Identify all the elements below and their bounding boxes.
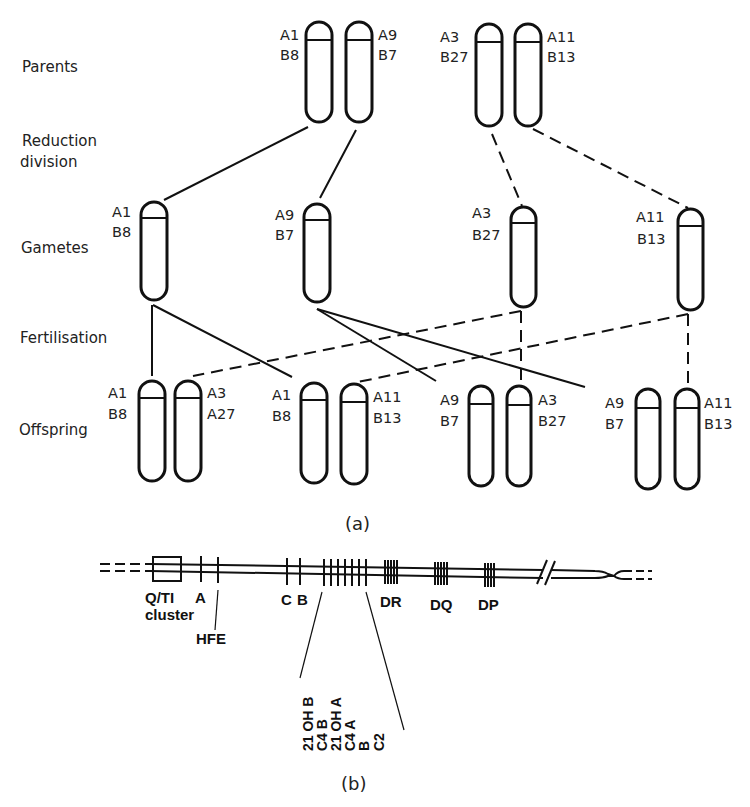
allele-a: A11 — [547, 29, 575, 45]
chromosome — [515, 24, 541, 126]
allele-a: A1 — [108, 385, 127, 401]
chromosome — [341, 384, 367, 484]
stage-label-gametes: Gametes — [21, 239, 89, 257]
allele-b: B7 — [605, 416, 624, 432]
chromosome — [346, 22, 372, 122]
meiosis-line — [164, 127, 308, 200]
allele-b: A27 — [207, 406, 235, 422]
meiosis-line — [320, 130, 356, 198]
allele-a: A1 — [272, 387, 291, 403]
allele-a: A3 — [440, 29, 459, 45]
gene-label-cluster: cluster — [145, 606, 194, 623]
allele-b: B27 — [440, 49, 468, 65]
qti-cluster-box — [153, 557, 181, 581]
gamete-4: A11 B13 — [636, 209, 703, 310]
allele-a: A11 — [373, 389, 401, 405]
allele-b: B8 — [272, 408, 291, 424]
gene-label-dr: DR — [380, 593, 402, 610]
allele-a: A11 — [636, 209, 664, 225]
chromosome — [469, 386, 493, 486]
stage-label-parents: Parents — [22, 58, 78, 76]
allele-a: A3 — [207, 385, 226, 401]
allele-b: B13 — [637, 231, 665, 247]
offspring-2: A1 B8 A11 B13 — [272, 383, 401, 484]
chromosome — [476, 24, 502, 126]
chromosome-6-map — [100, 556, 652, 730]
chromosome — [301, 383, 327, 483]
allele-a: A3 — [472, 205, 491, 221]
allele-b: B7 — [440, 413, 459, 429]
allele-b: B13 — [373, 410, 401, 426]
gene-label-a: A — [195, 589, 206, 606]
stage-label-fertilisation: Fertilisation — [20, 329, 107, 347]
gene-label-qti: Q/TI — [145, 589, 174, 606]
chromosome — [306, 22, 332, 122]
gene-label-hfe: HFE — [196, 630, 226, 647]
chromosome — [678, 209, 703, 310]
allele-a: A9 — [378, 27, 397, 43]
gamete-3: A3 B27 — [472, 205, 536, 307]
allele-a: A1 — [112, 204, 131, 220]
allele-b: B7 — [378, 47, 397, 63]
offspring-3: A9 B7 A3 B27 — [440, 386, 566, 486]
parent-2-chromosome-pair: A3 B27 A11 B13 — [440, 24, 575, 126]
stage-label-offspring: Offspring — [19, 421, 88, 439]
parent-1-chromosome-pair: A1 B8 A9 B7 — [280, 22, 397, 122]
hfe-leader-line — [215, 590, 218, 630]
stage-label-reduction: Reduction — [22, 132, 97, 150]
allele-a: A1 — [280, 27, 299, 43]
allele-b: B8 — [280, 47, 299, 63]
offspring-4: A9 B7 A11 B13 — [605, 389, 732, 489]
allele-b: B7 — [275, 227, 294, 243]
gene-label-bf: B — [356, 741, 372, 751]
chromosome — [139, 381, 165, 481]
fertilisation-line — [317, 309, 585, 387]
gamete-1: A1 B8 — [112, 202, 167, 300]
fertilisation-line — [153, 305, 292, 377]
allele-a: A11 — [704, 395, 732, 411]
chromosome — [141, 202, 167, 300]
allele-b: B8 — [112, 224, 131, 240]
gamete-2: A9 B7 — [275, 204, 330, 302]
meiosis-line-dashed — [533, 129, 688, 208]
gene-label-c: C — [281, 591, 292, 608]
chromosome — [304, 204, 330, 302]
meiosis-line-dashed — [492, 134, 522, 206]
chromosome — [636, 389, 660, 489]
caption-a: (a) — [345, 513, 370, 534]
gene-label-b: B — [297, 591, 308, 608]
chromosome — [507, 386, 531, 486]
allele-b: B27 — [472, 227, 500, 243]
hla-inheritance-figure: Parents Reduction division Gametes Ferti… — [0, 0, 750, 807]
chromosome — [675, 389, 699, 489]
gene-label-c2: C2 — [371, 733, 387, 751]
caption-b: (b) — [341, 773, 366, 794]
allele-b: B27 — [538, 413, 566, 429]
gene-label-dp: DP — [478, 596, 499, 613]
allele-b: B13 — [704, 416, 732, 432]
stage-label-division: division — [20, 153, 77, 171]
allele-a: A9 — [275, 207, 294, 223]
chromosome — [175, 381, 201, 481]
allele-a: A9 — [440, 392, 459, 408]
allele-a: A3 — [538, 392, 557, 408]
allele-b: B13 — [547, 49, 575, 65]
offspring-1: A1 B8 A3 A27 — [108, 381, 235, 481]
allele-a: A9 — [605, 395, 624, 411]
allele-b: B8 — [108, 406, 127, 422]
class3-leader-right — [366, 592, 404, 730]
gene-label-dq: DQ — [430, 596, 453, 613]
